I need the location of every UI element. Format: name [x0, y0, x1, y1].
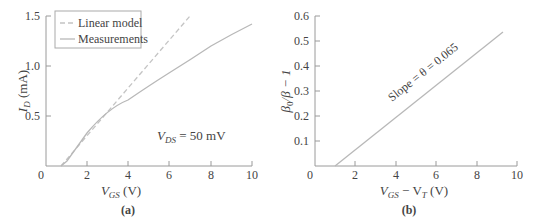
x-tick-label: 4: [125, 168, 131, 182]
legend-label-linear: Linear model: [78, 16, 143, 30]
y-axis-label-a: ID (mA): [15, 70, 32, 113]
chart-b: 0.6 0.5 0.4 0.3 0.2 0.1 0 2 4 6 8 10 Slo…: [278, 9, 523, 217]
x-axis-label-a: VGS (V): [101, 183, 141, 200]
legend-label-measurements: Measurements: [78, 32, 148, 46]
x-tick-label: 8: [474, 168, 480, 182]
x-tick-label: 10: [246, 168, 258, 182]
slope-annotation: Slope = θ = 0.065: [385, 40, 461, 104]
x-axis-label-b: VGS − VT (V): [380, 183, 448, 200]
x-tick-label: 0: [307, 168, 313, 182]
x-tick-label: 10: [511, 168, 523, 182]
x-tick-label: 0: [38, 168, 44, 182]
y-tick-label: 0.3: [294, 84, 309, 98]
x-tick-label: 8: [208, 168, 214, 182]
figure: 1.5 1.0 0.5 0 2 4 6 8 10 Linear model Me…: [0, 0, 536, 223]
y-tick-label: 0.2: [294, 109, 309, 123]
x-tick-label: 2: [84, 168, 90, 182]
theta-line: [335, 32, 503, 166]
panel-label-a: (a): [121, 203, 135, 217]
y-tick-label: 0.5: [294, 34, 309, 48]
y-tick-label: 0.4: [294, 59, 309, 73]
y-tick-label: 0.6: [294, 9, 309, 23]
chart-a: 1.5 1.0 0.5 0 2 4 6 8 10 Linear model Me…: [15, 9, 258, 217]
x-tick-label: 6: [433, 168, 439, 182]
y-tick-label: 1.5: [25, 9, 40, 23]
x-tick-label: 2: [352, 168, 358, 182]
x-tick-label: 4: [393, 168, 399, 182]
y-axis-label-b: β0/β − 1: [278, 70, 295, 114]
panel-label-b: (b): [402, 203, 417, 217]
annotation-vds: VDS = 50 mV: [157, 128, 226, 145]
y-tick-label: 0.1: [294, 134, 309, 148]
x-tick-label: 6: [166, 168, 172, 182]
